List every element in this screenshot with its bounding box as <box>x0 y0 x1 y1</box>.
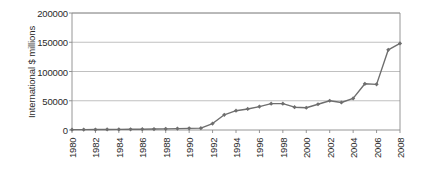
data-line <box>72 43 400 129</box>
line-chart: International $ millions 050000100000150… <box>0 0 422 179</box>
plot-area <box>0 0 422 179</box>
data-markers <box>70 41 402 131</box>
gridlines <box>72 13 400 101</box>
